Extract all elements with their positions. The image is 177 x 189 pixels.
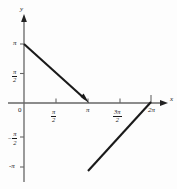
x-axis-arrowhead [160, 100, 168, 106]
x-tick-label-pi-over-2: π 2 [51, 107, 56, 124]
x-tick-label-pi: π [86, 107, 90, 114]
y-tick-label-neg-pi: -π [9, 163, 15, 170]
x-axis-label: x [170, 96, 173, 103]
fraction-3pi-over-2: 3π 2 [113, 109, 122, 125]
y-tick-label-pi: π [13, 40, 17, 47]
minus-sign: − [8, 136, 12, 143]
y-tick-label-pi-over-2: π 2 [12, 67, 17, 84]
series-segment-1 [24, 44, 89, 103]
fraction-neg-pi-over-2: π 2 [12, 131, 17, 147]
y-tick-label-neg-pi-over-2: − π 2 [8, 131, 17, 147]
segment-1-line [24, 44, 85, 99]
x-tick-label-3pi-over-2: 3π 2 [113, 107, 122, 124]
y-axis [21, 14, 27, 182]
x-axis-ticks [56, 95, 151, 103]
fraction-pi-over-2: π 2 [12, 69, 17, 85]
graph-figure: y x 0 π π 2 − π 2 -π π 2 π 3π 2 [0, 0, 177, 189]
y-axis-label: y [20, 6, 23, 13]
fraction-pi-over-2: π 2 [51, 109, 56, 125]
y-axis-arrowhead [21, 14, 27, 22]
x-tick-label-2pi: 2π [148, 107, 155, 114]
origin-label: 0 [18, 107, 22, 114]
plot-canvas [0, 0, 177, 189]
